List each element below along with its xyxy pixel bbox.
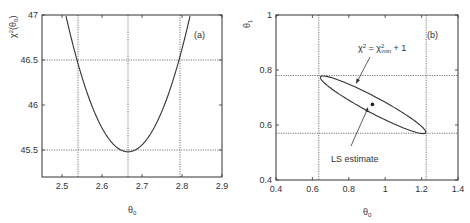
- x-tick-label: 1: [383, 184, 388, 194]
- panel-b-label: (b): [427, 30, 438, 40]
- x-tick-label: 2.9: [216, 181, 229, 191]
- contour-annotation: χ2 = χ2min + 1: [358, 43, 406, 54]
- x-tick-label: 2.5: [56, 181, 69, 191]
- x-tick-label: 2.6: [96, 181, 109, 191]
- contour-arrowhead-icon: [356, 79, 360, 85]
- panel-b-x-axis-label: θ0: [363, 207, 372, 218]
- x-tick-label: 1.4: [452, 184, 465, 194]
- y-tick-label: 0.4: [259, 175, 272, 185]
- panel-b: 0.40.60.811.21.4 0.40.60.81 (b) χ2 = χ2m…: [242, 10, 464, 218]
- chi-square-curve: [66, 16, 190, 152]
- y-tick-label: 0.6: [259, 120, 272, 130]
- panel-a-label: (a): [194, 30, 205, 40]
- panel-a-y-axis-label: χ2(θ0): [8, 16, 19, 38]
- y-tick-label: 47: [28, 10, 38, 20]
- y-tick-label: 46.5: [20, 55, 38, 65]
- x-tick-label: 0.4: [270, 184, 283, 194]
- panel-a-x-ticks: 2.52.62.72.82.9: [56, 15, 229, 191]
- figure: 2.52.62.72.82.9 45.54646.547 (a) θ0 χ2(θ…: [0, 0, 470, 223]
- panel-a-x-axis-label: θ0: [128, 205, 137, 216]
- y-tick-label: 1: [267, 10, 272, 20]
- ls-estimate-arrow: [351, 110, 367, 146]
- y-tick-label: 45.5: [20, 145, 38, 155]
- ls-estimate-annotation: LS estimate: [331, 154, 379, 164]
- y-tick-label: 46: [28, 100, 38, 110]
- panel-a: 2.52.62.72.82.9 45.54646.547 (a) θ0 χ2(θ…: [8, 10, 228, 216]
- panel-b-x-ticks: 0.40.60.811.21.4: [270, 15, 465, 194]
- panel-b-y-axis-label: θ1: [242, 19, 253, 28]
- x-tick-label: 2.7: [136, 181, 149, 191]
- x-tick-label: 0.8: [343, 184, 356, 194]
- x-tick-label: 0.6: [306, 184, 319, 194]
- x-tick-label: 1.2: [415, 184, 428, 194]
- x-tick-label: 2.8: [176, 181, 189, 191]
- contour-arrow: [357, 57, 370, 82]
- panel-a-y-ticks: 45.54646.547: [20, 10, 222, 155]
- y-tick-label: 0.8: [259, 65, 272, 75]
- ls-estimate-point: [371, 103, 375, 107]
